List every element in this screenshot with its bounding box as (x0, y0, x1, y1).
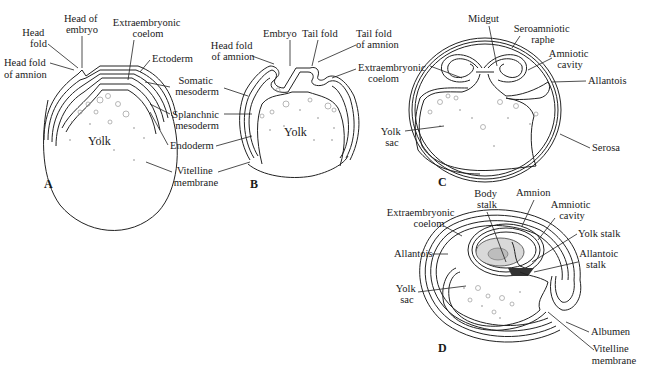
panel-b-label: B (250, 177, 258, 191)
label-albumen: Albumen (591, 326, 631, 337)
panel-a-label: A (44, 177, 53, 191)
label-endoderm: Endoderm (170, 140, 214, 151)
panel-c-yolk-sac (419, 92, 536, 171)
label-head-fold: Head fold (22, 27, 48, 49)
panel-d-yolk-granules (463, 286, 521, 319)
embryo-membranes-diagram: Yolk A Head of embryo Head fold Head fol… (0, 0, 648, 385)
label-amniotic-cavity-d: Amniotic cavity (551, 199, 593, 221)
label-extraembryonic-coelom-a: Extraembryonic coelom (113, 17, 183, 39)
label-amniotic-cavity-c: Amniotic cavity (549, 48, 591, 70)
panel-d-label: D (438, 341, 447, 355)
panel-c: C Midgut Seroamniotic raphe Amniotic cav… (381, 13, 627, 189)
label-midgut: Midgut (468, 13, 499, 24)
label-extraembryonic-coelom-d: Extraembryonic coelom (387, 207, 457, 229)
label-tail-fold-of-amnion: Tail fold of amnion (356, 28, 400, 50)
panel-a: Yolk A Head of embryo Head fold Head fol… (4, 13, 222, 230)
panel-b: Yolk B Embryo Tail fold Tail fold of amn… (211, 28, 428, 191)
label-body-stalk: Body stalk (474, 188, 499, 210)
label-embryo: Embryo (263, 28, 297, 39)
label-yolk-stalk: Yolk stalk (578, 228, 621, 239)
label-seroamniotic-raphe: Seroamniotic raphe (514, 23, 573, 45)
panel-a-yolk-granules (69, 94, 145, 161)
label-extraembryonic-coelom-b: Extraembryonic coelom (358, 62, 428, 84)
panel-b-yolk-label: Yolk (284, 125, 307, 139)
panel-a-yolk-label: Yolk (88, 134, 111, 148)
label-allantois-c: Allantois (588, 75, 627, 86)
label-vitelline-membrane-a: Vitelline membrane (174, 165, 219, 188)
label-splanchnic-mesoderm: Splanchnic mesoderm (172, 109, 221, 131)
label-serosa: Serosa (592, 142, 620, 153)
label-allantoic-stalk: Allantoic stalk (579, 248, 621, 270)
panel-b-vitelline-membrane (248, 156, 348, 178)
label-allantois-d: Allantois (394, 248, 433, 259)
label-vitelline-membrane-d: Vitelline membrane (592, 343, 637, 366)
panel-d-yolk-sac (449, 272, 548, 326)
panel-d: D Body stalk Amnion Amniotic cavity Extr… (387, 187, 637, 366)
label-head-fold-of-amnion: Head fold of amnion (4, 57, 48, 80)
label-head-fold-of-amnion-b: Head fold of amnion (211, 40, 255, 62)
panel-c-label: C (438, 175, 447, 189)
label-somatic-mesoderm: Somatic mesoderm (175, 75, 219, 97)
label-amnion: Amnion (516, 187, 551, 198)
label-head-of-embryo: Head of embryo (64, 13, 100, 35)
panel-c-yolk-granules (428, 94, 538, 147)
label-ectoderm: Ectoderm (152, 53, 193, 64)
label-yolk-sac-d: Yolk sac (396, 283, 419, 305)
label-yolk-sac-c: Yolk sac (381, 126, 404, 148)
label-tail-fold: Tail fold (302, 28, 338, 39)
